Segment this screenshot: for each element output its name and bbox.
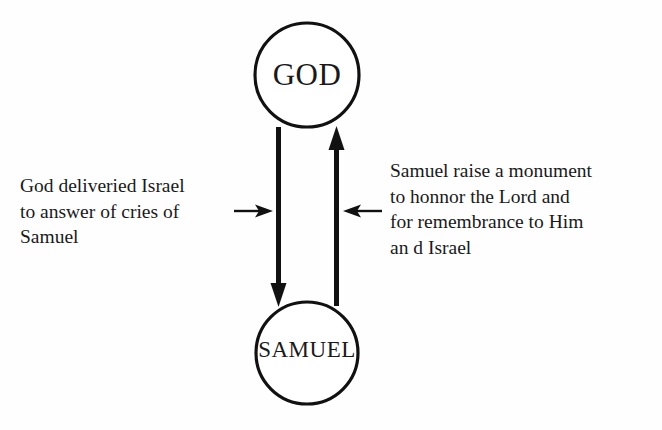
pointer-left-arrow-icon: [234, 205, 273, 218]
pointer-right-arrow-icon: [343, 205, 382, 218]
node-god-label: GOD: [254, 58, 360, 92]
node-samuel-label: SAMUEL: [252, 337, 362, 363]
annotation-left-text: God deliveried Israel to answer of cries…: [20, 173, 235, 250]
edge-samuel-to-god-arrow[interactable]: [329, 126, 345, 306]
annotation-right-text: Samuel raise a monument to honnor the Lo…: [390, 158, 648, 260]
edge-samuel-to-god-arrowhead: [329, 126, 345, 150]
diagram-canvas: GOD SAMUEL God deliveried Israel to answ…: [0, 0, 662, 430]
edge-god-to-samuel-arrow[interactable]: [271, 127, 287, 307]
edge-god-to-samuel-arrowhead: [271, 283, 287, 307]
